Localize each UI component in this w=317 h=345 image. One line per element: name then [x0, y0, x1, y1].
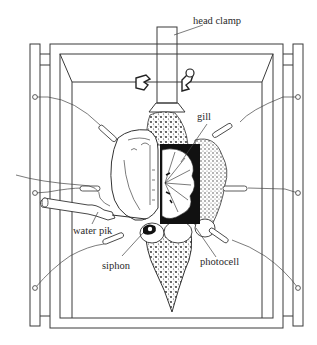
left-side-rail — [30, 44, 50, 326]
water-pik-label: water pik — [73, 225, 113, 236]
siphon-leader — [122, 233, 143, 256]
electrode-upper-right — [212, 95, 301, 139]
head-clamp — [136, 27, 194, 112]
apparatus-diagram: head clamp g — [0, 0, 317, 345]
electrode-upper-left — [33, 95, 118, 143]
head-clamp-leader — [174, 25, 203, 35]
right-side-rail — [283, 44, 303, 326]
electrode-middle-left — [33, 186, 100, 195]
photocell-label: photocell — [200, 256, 239, 267]
head-clamp-label: head clamp — [193, 15, 241, 26]
siphon-label: siphon — [102, 260, 131, 271]
gill-label: gill — [197, 111, 211, 122]
